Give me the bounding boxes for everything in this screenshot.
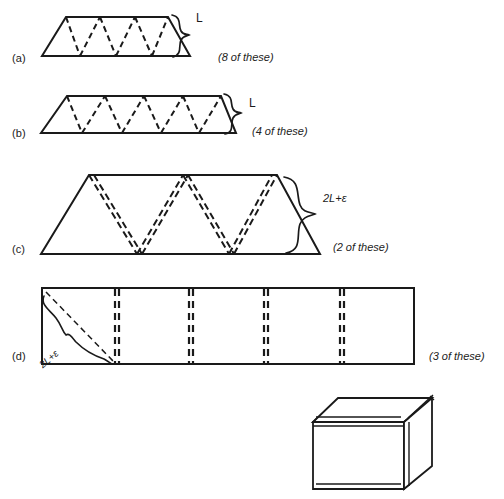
- panel-b-graphic: [41, 94, 241, 134]
- dimension-label-b: L: [249, 96, 256, 110]
- panel-d-rectangle: [42, 288, 414, 364]
- figure-svg: [0, 0, 504, 499]
- panel-c-graphic: [41, 175, 320, 254]
- panel-a-graphic: [42, 15, 190, 57]
- panel-a-trapezoid: [42, 17, 190, 56]
- panel-d-graphic: [42, 288, 414, 364]
- panel-b-trapezoid: [41, 96, 236, 133]
- panel-label-b: (b): [12, 127, 26, 139]
- count-label-a: (8 of these): [218, 51, 274, 63]
- dimension-label-c: 2L+ε: [323, 192, 347, 204]
- count-label-b: (4 of these): [252, 125, 308, 137]
- count-label-c: (2 of these): [333, 241, 389, 253]
- panel-label-c: (c): [12, 243, 25, 255]
- count-label-d: (3 of these): [429, 350, 485, 362]
- panel-label-a: (a): [12, 52, 26, 64]
- panel-label-d: (d): [12, 350, 26, 362]
- assembled-cube: [313, 395, 434, 489]
- dimension-label-a: L: [196, 11, 203, 25]
- figure-root: (a) (b) (c) (d) L L 2L+ε 2L+ε (8 of thes…: [0, 0, 504, 499]
- cube-front-face: [313, 422, 404, 489]
